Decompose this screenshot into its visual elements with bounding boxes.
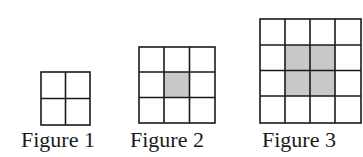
figure-2-grid bbox=[138, 46, 217, 125]
figure-1-grid bbox=[40, 71, 92, 127]
shaded-cell bbox=[164, 72, 189, 97]
figure-3-grid bbox=[259, 18, 363, 125]
figure-3-label: Figure 3 bbox=[262, 127, 336, 153]
figure-1-label: Figure 1 bbox=[21, 127, 95, 153]
figure-2-label: Figure 2 bbox=[130, 127, 204, 153]
